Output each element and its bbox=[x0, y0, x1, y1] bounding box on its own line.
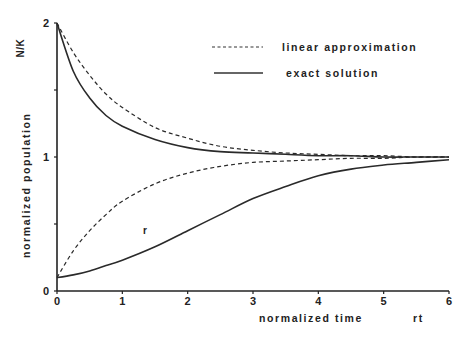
exact-solution-curve bbox=[57, 160, 449, 278]
x-tick-label: 2 bbox=[185, 295, 191, 307]
x-tick-label: 5 bbox=[381, 295, 387, 307]
population-chart: 0123456012 linear approximation exact so… bbox=[0, 0, 465, 337]
legend: linear approximation exact solution bbox=[212, 41, 417, 79]
y-axis-label: normalized population bbox=[20, 112, 32, 258]
axes: 0123456012 bbox=[43, 17, 452, 307]
svg-text:N/K: N/K bbox=[15, 38, 26, 57]
x-tick-label: 1 bbox=[119, 295, 125, 307]
y-tick-label: 0 bbox=[43, 285, 49, 297]
annotation-r: r bbox=[143, 225, 147, 236]
legend-label-linear: linear approximation bbox=[282, 41, 417, 53]
curves bbox=[57, 23, 449, 278]
x-tick-label: 3 bbox=[250, 295, 256, 307]
y-axis-symbol: N/K bbox=[15, 38, 26, 57]
x-tick-label: 0 bbox=[54, 295, 60, 307]
y-tick-label: 2 bbox=[43, 17, 49, 29]
y-tick-label: 1 bbox=[43, 151, 49, 163]
x-tick-label: 4 bbox=[315, 295, 322, 307]
x-axis-unit: rt bbox=[413, 312, 424, 324]
legend-label-exact: exact solution bbox=[286, 67, 379, 79]
x-tick-label: 6 bbox=[446, 295, 452, 307]
x-axis-label: normalized time bbox=[259, 312, 363, 324]
linear-approximation-curve bbox=[57, 157, 449, 278]
